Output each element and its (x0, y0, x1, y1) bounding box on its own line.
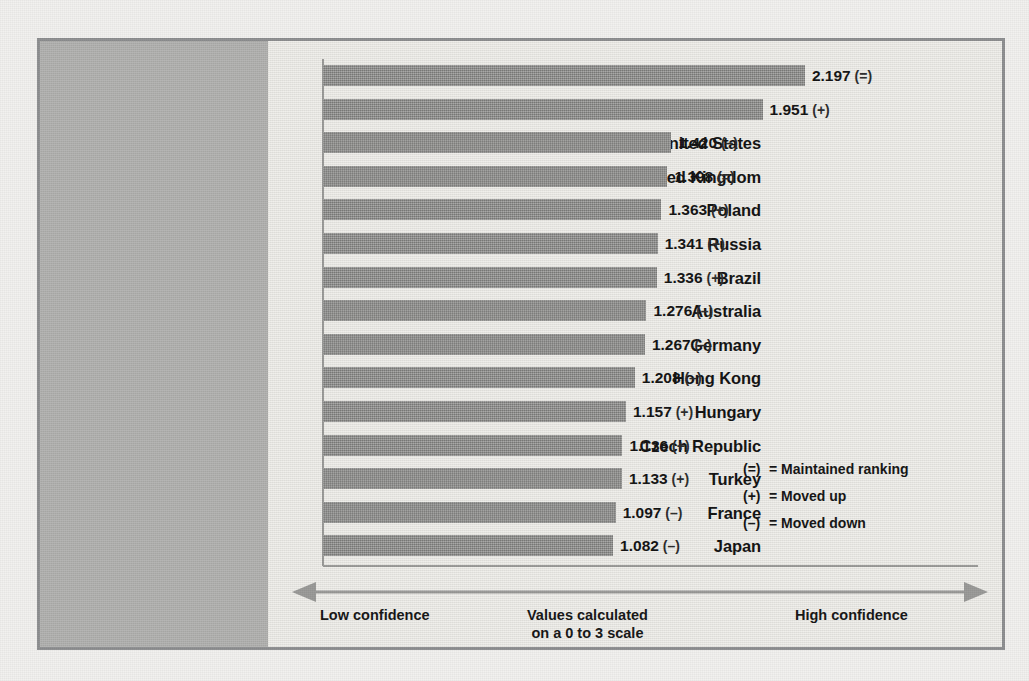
bar-value-label: 1.133 (+) (629, 466, 689, 492)
bar-row: Russia1.341 (+) (40, 229, 1002, 259)
bar-row: Germany1.267 (–) (40, 330, 1002, 360)
bar-row: China2.197 (=) (40, 61, 1002, 91)
bar (323, 65, 805, 86)
legend-item: (–)= Moved down (743, 510, 909, 537)
legend: (=)= Maintained ranking(+)= Moved up(–)=… (743, 456, 909, 537)
bar-value-number: 1.097 (623, 504, 662, 521)
bar-rank-change-marker: (–) (681, 370, 702, 386)
bar (323, 334, 645, 355)
bar-value-number: 2.197 (812, 67, 851, 84)
bar-value-number: 1.157 (633, 403, 672, 420)
legend-equals-sign: = (769, 461, 777, 477)
bar (323, 99, 763, 120)
bar (323, 199, 661, 220)
bar (323, 468, 622, 489)
legend-text: Maintained ranking (777, 461, 908, 477)
legend-symbol: (+) (743, 483, 769, 510)
bar-row: Poland1.363 (+) (40, 195, 1002, 225)
bar-value-label: 1.363 (+) (668, 197, 728, 223)
axis-caption-mid-line2: on a 0 to 3 scale (527, 624, 648, 642)
bar (323, 367, 635, 388)
bar (323, 233, 658, 254)
bar-row: Hong Kong1.208 (–) (40, 363, 1002, 393)
bar-value-number: 1.951 (770, 101, 809, 118)
bar-value-label: 1.341 (+) (665, 231, 725, 257)
axis-caption-mid: Values calculated on a 0 to 3 scale (527, 606, 648, 642)
bar-row: India1.951 (+) (40, 95, 1002, 125)
bar-value-number: 1.276 (653, 302, 692, 319)
bar-value-label: 1.157 (+) (633, 399, 693, 425)
bar-value-label: 1.136 (+) (629, 433, 689, 459)
bar-value-number: 1.363 (668, 201, 707, 218)
bar-value-number: 1.133 (629, 470, 668, 487)
bar-value-label: 1.336 (+) (664, 265, 724, 291)
axis-caption-mid-line1: Values calculated (527, 606, 648, 624)
bar-rank-change-marker: (+) (703, 270, 724, 286)
bar-rank-change-marker: (–) (691, 337, 712, 353)
bar-value-label: 1.082 (–) (620, 533, 680, 559)
legend-item: (=)= Maintained ranking (743, 456, 909, 483)
bar-value-label: 1.267 (–) (652, 332, 712, 358)
bar-row: Brazil1.336 (+) (40, 263, 1002, 293)
bar-value-number: 1.082 (620, 537, 659, 554)
bar-value-number: 1.398 (674, 168, 713, 185)
country-label: Hungary (695, 397, 761, 427)
bar (323, 267, 657, 288)
axis-caption-low: Low confidence (320, 606, 430, 624)
bar-rank-change-marker: (–) (661, 505, 682, 521)
bar (323, 435, 622, 456)
bar (323, 535, 613, 556)
bar-rank-change-marker: (=) (713, 169, 734, 185)
bar (323, 502, 616, 523)
bar-value-label: 1.097 (–) (623, 500, 683, 526)
bar-value-number: 1.420 (678, 134, 717, 151)
bar-value-label: 1.276 (–) (653, 298, 713, 324)
bar-value-label: 1.398 (=) (674, 164, 734, 190)
bar-value-number: 1.341 (665, 235, 704, 252)
bar-rank-change-marker: (–) (692, 303, 713, 319)
bar-rank-change-marker: (+) (703, 236, 724, 252)
confidence-scale-arrow-icon (290, 581, 990, 603)
bar (323, 300, 646, 321)
bar-value-label: 1.420 (–) (678, 130, 738, 156)
bar-value-number: 1.336 (664, 269, 703, 286)
axis-baseline (323, 565, 978, 567)
bar (323, 166, 667, 187)
bar-rank-change-marker: (–) (659, 538, 680, 554)
bar-row: Australia1.276 (–) (40, 296, 1002, 326)
legend-text: Moved down (777, 515, 866, 531)
bar-rank-change-marker: (=) (851, 68, 872, 84)
bar-value-number: 1.267 (652, 336, 691, 353)
legend-text: Moved up (777, 488, 846, 504)
bar-rank-change-marker: (–) (717, 135, 738, 151)
chart-figure-frame: China2.197 (=)India1.951 (+)United State… (37, 38, 1005, 650)
bar (323, 401, 626, 422)
bar-value-label: 1.951 (+) (770, 97, 830, 123)
legend-equals-sign: = (769, 488, 777, 504)
legend-symbol: (=) (743, 456, 769, 483)
bar-row: United States1.420 (–) (40, 128, 1002, 158)
bar-value-label: 2.197 (=) (812, 63, 872, 89)
bar-rank-change-marker: (+) (668, 438, 689, 454)
legend-symbol: (–) (743, 510, 769, 537)
bar-value-number: 1.136 (629, 437, 668, 454)
bar-rank-change-marker: (+) (707, 202, 728, 218)
bar-rank-change-marker: (+) (808, 102, 829, 118)
bar-row: Hungary1.157 (+) (40, 397, 1002, 427)
bar-rank-change-marker: (+) (672, 404, 693, 420)
bar-value-number: 1.208 (642, 369, 681, 386)
bar-rank-change-marker: (+) (668, 471, 689, 487)
bar-value-label: 1.208 (–) (642, 365, 702, 391)
axis-caption-high: High confidence (795, 606, 908, 624)
bar (323, 132, 671, 153)
legend-item: (+)= Moved up (743, 483, 909, 510)
legend-equals-sign: = (769, 515, 777, 531)
bar-row: United Kingdom1.398 (=) (40, 162, 1002, 192)
